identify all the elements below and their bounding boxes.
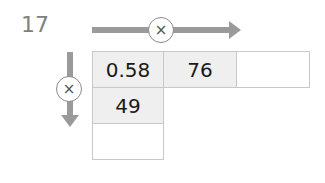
grid-cell-r1c1: 0.58: [93, 52, 164, 88]
arrow-down-icon: [61, 115, 79, 127]
arrow-right-icon: [229, 21, 241, 39]
grid-cell-r1c2: 76: [164, 52, 237, 88]
empty-space: [164, 88, 310, 124]
answer-cell-r3c1[interactable]: [93, 124, 164, 160]
multiply-icon: ×: [56, 76, 82, 102]
grid-cell-r2c1: 49: [93, 88, 164, 124]
empty-space: [164, 124, 310, 160]
question-number: 17: [21, 12, 49, 37]
multiplication-grid: 0.58 76 49: [92, 51, 310, 160]
answer-cell-r1c3[interactable]: [237, 52, 310, 88]
multiply-icon: ×: [148, 17, 174, 43]
